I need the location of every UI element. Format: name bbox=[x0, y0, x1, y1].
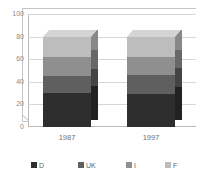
y-axis-tick-label: 60 bbox=[2, 55, 24, 62]
bar-segment-UK-1997[interactable] bbox=[127, 75, 175, 94]
legend-swatch-UK bbox=[78, 162, 84, 168]
legend-swatch-F bbox=[165, 162, 171, 168]
legend-item-I[interactable]: I bbox=[126, 160, 136, 170]
x-axis-tick-label: 1997 bbox=[119, 134, 183, 142]
legend-swatch-D bbox=[31, 162, 37, 168]
bar-segment-side-D-1997 bbox=[175, 87, 182, 120]
legend-label: I bbox=[134, 162, 136, 169]
legend-item-UK[interactable]: UK bbox=[78, 160, 96, 170]
chart-legend: DUKIF bbox=[0, 160, 206, 172]
y-axis-tick-label: 40 bbox=[2, 78, 24, 85]
bar-segment-side-UK-1997 bbox=[175, 68, 182, 87]
bar-segment-I-1987[interactable] bbox=[43, 57, 91, 76]
y-axis-tick-label: 0 bbox=[2, 123, 24, 130]
bar-segment-F-1997[interactable] bbox=[127, 37, 175, 57]
bar-segment-UK-1987[interactable] bbox=[43, 76, 91, 93]
legend-swatch-I bbox=[126, 162, 132, 168]
legend-item-D[interactable]: D bbox=[31, 160, 44, 170]
bar-segment-D-1987[interactable] bbox=[43, 93, 91, 127]
legend-item-F[interactable]: F bbox=[165, 160, 177, 170]
bar-top-face-1987 bbox=[43, 30, 97, 37]
plot-depth-top-edge bbox=[22, 8, 196, 9]
bar-segment-D-1997[interactable] bbox=[127, 94, 175, 127]
bar-1997[interactable] bbox=[127, 14, 175, 127]
y-axis-tick-label: 20 bbox=[2, 100, 24, 107]
bar-segment-I-1997[interactable] bbox=[127, 57, 175, 75]
bar-segment-F-1987[interactable] bbox=[43, 37, 91, 57]
legend-label: UK bbox=[86, 162, 96, 169]
bar-segment-side-D-1987 bbox=[91, 86, 98, 120]
stacked-column-chart: 100806040200 19871997 DUKIF bbox=[0, 0, 206, 180]
legend-label: D bbox=[39, 162, 44, 169]
bar-top-face-1997 bbox=[127, 30, 181, 37]
bar-segment-side-UK-1987 bbox=[91, 69, 98, 86]
bar-segment-side-I-1997 bbox=[175, 50, 182, 68]
legend-label: F bbox=[173, 162, 177, 169]
x-axis-tick-label: 1987 bbox=[35, 134, 99, 142]
bar-1987[interactable] bbox=[43, 14, 91, 127]
bar-segment-side-I-1987 bbox=[91, 50, 98, 69]
y-axis-tick-label: 100 bbox=[2, 10, 24, 17]
y-axis-tick-label: 80 bbox=[2, 33, 24, 40]
